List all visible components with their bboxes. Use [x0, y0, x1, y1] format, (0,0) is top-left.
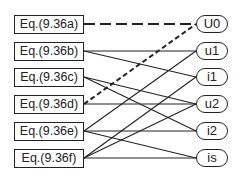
variable-node-u2: u2 [196, 95, 228, 113]
variable-node-i2: i2 [196, 122, 228, 140]
equation-box-9-36f: Eq.(9.36f) [14, 149, 84, 168]
equation-box-9-36d: Eq.(9.36d) [14, 95, 84, 114]
edge-b-i1 [84, 51, 196, 77]
equation-box-9-36e: Eq.(9.36e) [14, 122, 84, 141]
equation-box-9-36c: Eq.(9.36c) [14, 68, 84, 87]
variable-node-U0: U0 [196, 15, 228, 33]
edge-e-is [84, 131, 196, 158]
edge-f-i1 [84, 77, 196, 158]
variable-node-i1: i1 [196, 68, 228, 86]
equation-box-9-36a: Eq.(9.36a) [14, 15, 84, 34]
edge-e-u1 [84, 51, 196, 131]
equation-box-9-36b: Eq.(9.36b) [14, 42, 84, 61]
variable-node-u1: u1 [196, 42, 228, 60]
variable-node-is: is [196, 149, 228, 167]
